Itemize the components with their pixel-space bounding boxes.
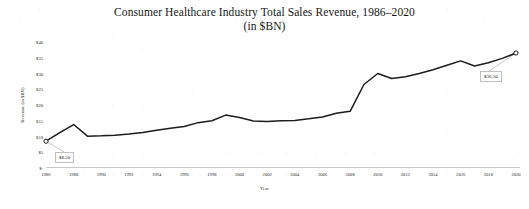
data-label-callout: $36.50 [480,71,502,82]
data-label-callout: $8.50 [55,152,74,163]
data-callouts: $8.50$36.50 [0,0,529,209]
chart-figure: Consumer Healthcare Industry Total Sales… [0,0,529,209]
